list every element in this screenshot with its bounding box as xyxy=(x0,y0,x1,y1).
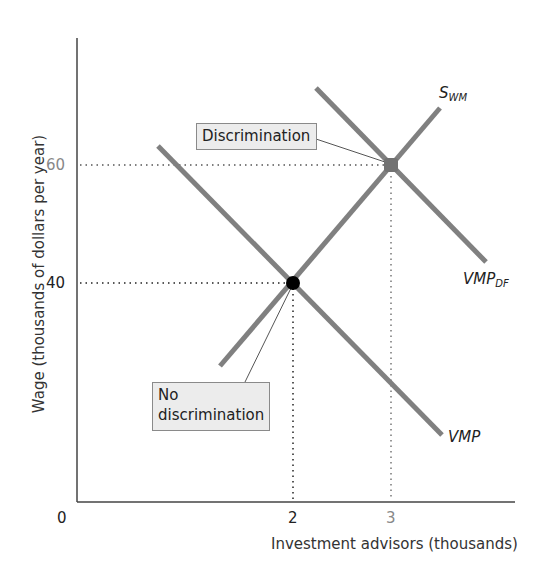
no-discrimination-leader xyxy=(245,286,292,382)
supply-label-main: S xyxy=(439,84,449,102)
origin-label: 0 xyxy=(57,509,67,527)
no-discrimination-line1: No xyxy=(158,385,264,405)
y-tick-40: 40 xyxy=(46,274,65,292)
y-tick-60: 60 xyxy=(46,156,65,174)
vmp-label: VMP xyxy=(448,428,480,446)
x-tick-2: 2 xyxy=(288,509,298,527)
x-tick-3: 3 xyxy=(386,509,396,527)
supply-label-sub: WM xyxy=(449,92,468,103)
supply-wm-label: SWM xyxy=(439,84,467,103)
vmp-df-label-main: VMP xyxy=(463,270,495,288)
vmp-df-label-sub: DF xyxy=(495,278,508,289)
vmp-df-label: VMPDF xyxy=(463,270,509,289)
discrimination-point xyxy=(384,158,398,172)
x-axis-label: Investment advisors (thousands) xyxy=(271,535,518,553)
vmp-df-curve xyxy=(316,88,486,262)
no-discrimination-point xyxy=(286,276,300,290)
discrimination-callout: Discrimination xyxy=(196,123,317,150)
no-discrimination-callout: No discrimination xyxy=(152,382,270,431)
no-discrimination-line2: discrimination xyxy=(158,405,264,425)
